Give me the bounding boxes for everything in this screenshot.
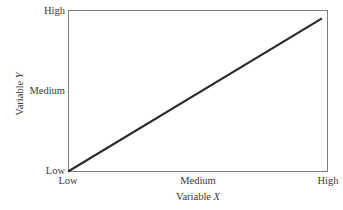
chart-figure: High Medium Low Variable Y Low Medium Hi… bbox=[0, 0, 343, 210]
y-tick-label-high: High bbox=[44, 5, 65, 16]
series-line-chart bbox=[69, 11, 327, 171]
x-axis-title-prefix: Variable bbox=[176, 191, 214, 202]
series-line-positive-linear bbox=[69, 19, 321, 171]
x-tick-label-low: Low bbox=[28, 175, 108, 187]
plot-area bbox=[68, 10, 328, 172]
y-axis-title-prefix: Variable bbox=[14, 78, 25, 116]
y-axis-title-letter: Y bbox=[14, 72, 25, 78]
x-axis-title: Variable X bbox=[98, 191, 298, 203]
y-tick-label-medium: Medium bbox=[29, 85, 65, 96]
x-axis-title-letter: X bbox=[214, 191, 220, 202]
x-tick-label-high: High bbox=[288, 175, 343, 187]
y-axis-title: Variable Y bbox=[14, 44, 26, 144]
x-tick-label-medium: Medium bbox=[158, 175, 238, 187]
